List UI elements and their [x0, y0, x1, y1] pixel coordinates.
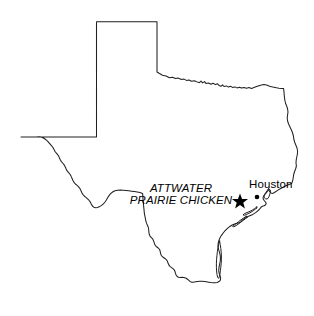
map-graphic [0, 0, 314, 316]
species-label-line-2: PRAIRIE CHICKEN [128, 195, 234, 206]
label-attwater-prairie-chicken: ATTWATER PRAIRIE CHICKEN [128, 183, 234, 206]
texas-state-outline [21, 22, 298, 283]
species-label-line-1: ATTWATER [128, 183, 234, 194]
houston-dot [255, 195, 260, 200]
label-houston: Houston [249, 179, 293, 190]
texas-range-map: ATTWATER PRAIRIE CHICKEN Houston [0, 0, 314, 316]
